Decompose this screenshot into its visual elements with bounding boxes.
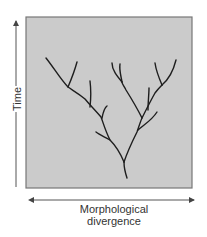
divergence-axis-left-arrowhead-icon (28, 197, 34, 203)
x-axis-label: Morphological divergence (64, 203, 164, 227)
plot-panel (26, 17, 192, 188)
branch-left-twig-2 (90, 81, 91, 107)
time-label-text: Time (11, 86, 23, 112)
y-axis-label: Time (8, 86, 26, 112)
x-axis-label-line1: Morphological (64, 203, 164, 215)
diagram-canvas (0, 0, 207, 237)
x-axis-label-line2: divergence (64, 215, 164, 227)
